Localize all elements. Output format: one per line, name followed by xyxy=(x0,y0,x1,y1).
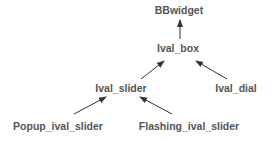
edge-ival-slider-to-ival-box xyxy=(141,61,164,79)
edge-popup-to-ival-slider xyxy=(74,97,106,114)
node-bbwidget: BBwidget xyxy=(155,4,203,16)
node-ival-box: Ival_box xyxy=(157,42,199,54)
edge-flashing-to-ival-slider xyxy=(140,97,172,114)
node-flashing-ival-slider: Flashing_ival_slider xyxy=(139,120,239,132)
node-popup-ival-slider: Popup_ival_slider xyxy=(13,120,103,132)
edge-ival-dial-to-ival-box xyxy=(196,61,227,79)
node-ival-slider: Ival_slider xyxy=(95,82,146,94)
node-ival-dial: Ival_dial xyxy=(215,82,256,94)
